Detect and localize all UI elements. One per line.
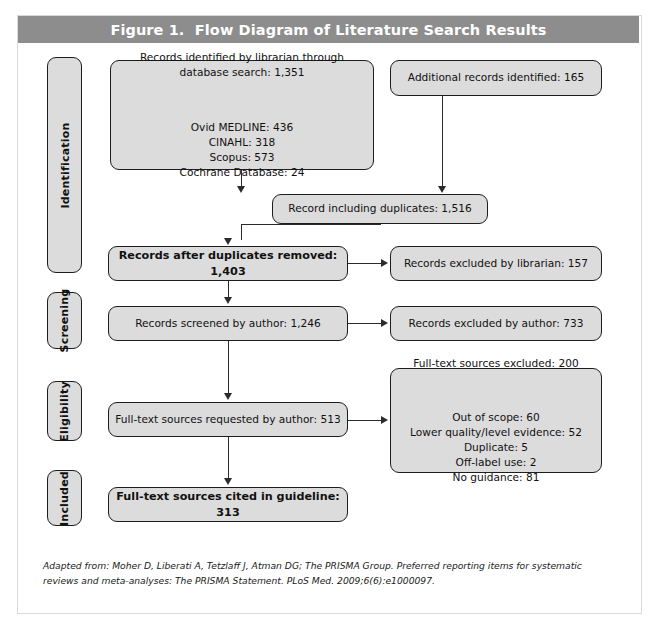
connector-duplicates-elbow [241,224,381,225]
node-additional-records-label: Additional records identified: 165 [397,70,595,85]
node-fulltext-cited-label: Full-text sources cited in guideline: 31… [115,489,341,521]
node-records-including-duplicates: Record including duplicates: 1,516 [272,194,488,224]
node-records-screened: Records screened by author: 1,246 [108,306,348,341]
arrowhead-fulltext-requested-to-cited [224,478,232,485]
stage-label-screening-text: Screening [58,289,71,353]
node-records-after-duplicates: Records after duplicates removed: 1,403 [108,246,348,281]
stage-label-eligibility: Eligibility [47,381,82,441]
connector-fulltext-requested-to-cited [228,437,229,479]
node-fulltext-requested: Full-text sources requested by author: 5… [108,402,348,437]
node-excluded-by-librarian-label: Records excluded by librarian: 157 [397,256,595,271]
figure-root: Figure 1. Flow Diagram of Literature Sea… [0,0,658,631]
arrowhead-identified-to-duplicates [237,186,245,193]
arrowhead-screened-to-fulltext-requested [224,393,232,400]
stage-label-screening: Screening [47,292,82,349]
node-fulltext-excluded-lead: Full-text sources excluded: 200 [397,356,595,371]
node-fulltext-excluded-details: Out of scope: 60 Lower quality/level evi… [397,410,595,485]
connector-screened-to-excluded-author [348,323,382,324]
node-records-after-duplicates-label: Records after duplicates removed: 1,403 [115,248,341,280]
arrowhead-fulltext-requested-to-excluded [381,416,388,424]
spacer [117,95,367,104]
node-fulltext-cited: Full-text sources cited in guideline: 31… [108,487,348,522]
node-records-including-duplicates-label: Record including duplicates: 1,516 [279,201,481,216]
node-records-screened-label: Records screened by author: 1,246 [115,316,341,331]
figure-footnote: Adapted from: Moher D, Liberati A, Tetzl… [43,559,613,589]
connector-after-duplicates-to-screened [228,281,229,298]
stage-label-eligibility-text: Eligibility [58,381,71,442]
node-excluded-by-author: Records excluded by author: 733 [390,306,602,341]
node-additional-records: Additional records identified: 165 [390,60,602,96]
connector-fulltext-requested-to-excluded [348,420,382,421]
connector-duplicates-to-after-duplicates-up [241,224,242,240]
arrowhead-duplicates-to-after-duplicates [224,238,232,245]
stage-label-included-text: Included [58,471,71,526]
spacer [397,386,595,395]
connector-after-duplicates-to-excluded-librarian [348,263,382,264]
node-records-identified-lead: Records identified by librarian through … [117,50,367,80]
arrowhead-screened-to-excluded-author [381,319,388,327]
node-excluded-by-author-label: Records excluded by author: 733 [397,316,595,331]
node-records-identified: Records identified by librarian through … [110,60,374,170]
node-fulltext-excluded: Full-text sources excluded: 200 Out of s… [390,368,602,473]
stage-label-identification-text: Identification [58,122,71,208]
node-fulltext-requested-label: Full-text sources requested by author: 5… [115,412,341,427]
node-excluded-by-librarian: Records excluded by librarian: 157 [390,246,602,281]
stage-label-included: Included [47,470,82,526]
stage-label-identification: Identification [47,57,82,273]
arrowhead-additional-to-duplicates [438,186,446,193]
connector-additional-to-duplicates [442,96,443,188]
arrowhead-after-duplicates-to-excluded-librarian [381,259,388,267]
arrowhead-after-duplicates-to-screened [224,297,232,304]
connector-screened-to-fulltext-requested [228,341,229,394]
